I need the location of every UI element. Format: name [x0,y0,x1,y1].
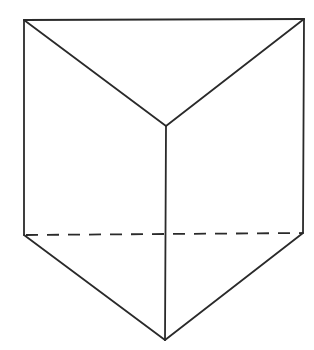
edge-vertical-front [165,126,166,340]
edge-top-back [24,19,304,20]
prism-diagram [0,0,314,350]
prism-svg [0,0,314,350]
edge-bottom-right [165,233,303,340]
edge-bottom-back-hidden [26,233,303,235]
edge-bottom-left [24,235,165,340]
edge-top-right [166,19,304,126]
edge-top-left [24,20,166,126]
edge-vertical-right [303,19,304,233]
